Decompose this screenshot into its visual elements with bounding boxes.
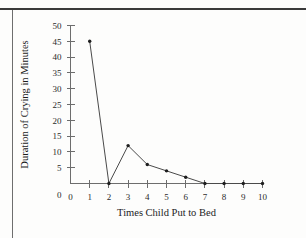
x-tick-label-9: 9 <box>241 192 246 202</box>
data-point-x10 <box>261 182 264 185</box>
x-tick-label-4: 4 <box>145 192 150 202</box>
y-axis-title: Duration of Crying in Minutes <box>19 40 30 168</box>
x-tick-label-8: 8 <box>222 192 227 202</box>
data-point-x3 <box>126 144 129 147</box>
chart-page: 05101520253035404550 012345678910 Times … <box>0 0 306 238</box>
x-tick-label-3: 3 <box>126 192 131 202</box>
x-axis-tick-labels: 012345678910 <box>68 192 267 202</box>
data-point-x7 <box>203 182 206 185</box>
chart-svg: 05101520253035404550 012345678910 Times … <box>0 0 306 238</box>
data-point-x9 <box>242 182 245 185</box>
line-chart: 05101520253035404550 012345678910 Times … <box>0 0 306 238</box>
y-tick-label-5: 5 <box>57 163 62 173</box>
x-axis-title: Times Child Put to Bed <box>117 207 217 218</box>
x-tick-label-6: 6 <box>183 192 188 202</box>
y-tick-label-0: 0 <box>57 190 62 200</box>
data-point-x6 <box>184 175 187 178</box>
data-point-x4 <box>146 163 149 166</box>
x-tick-label-0: 0 <box>68 192 73 202</box>
data-series-line <box>90 41 263 183</box>
x-tick-label-2: 2 <box>107 192 112 202</box>
y-tick-label-15: 15 <box>53 131 63 141</box>
x-tick-label-1: 1 <box>87 192 92 202</box>
y-tick-label-45: 45 <box>53 37 63 47</box>
y-tick-label-10: 10 <box>53 147 63 157</box>
y-axis-tick-labels: 05101520253035404550 <box>53 21 63 200</box>
y-tick-label-35: 35 <box>53 68 63 78</box>
y-tick-label-20: 20 <box>53 116 63 126</box>
y-tick-label-25: 25 <box>53 100 63 110</box>
x-tick-label-7: 7 <box>203 192 208 202</box>
y-tick-label-30: 30 <box>53 84 63 94</box>
data-point-x2 <box>107 182 110 185</box>
x-tick-label-5: 5 <box>164 192 169 202</box>
data-point-x5 <box>165 169 168 172</box>
data-series-points <box>88 40 264 186</box>
y-tick-label-40: 40 <box>53 52 63 62</box>
data-point-x8 <box>222 182 225 185</box>
data-point-x1 <box>88 40 91 43</box>
x-tick-label-10: 10 <box>258 192 268 202</box>
y-tick-label-50: 50 <box>53 21 63 31</box>
